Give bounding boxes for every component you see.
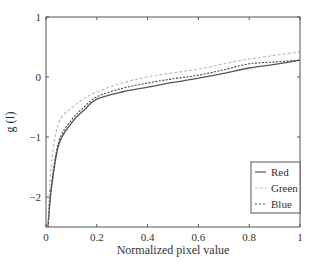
x-tick-label: 0.6 bbox=[192, 231, 206, 243]
x-tick-label: 0.8 bbox=[242, 231, 256, 243]
legend-label-green: Green bbox=[271, 182, 298, 194]
y-tick-label: 0 bbox=[36, 71, 42, 83]
x-tick-label: 1 bbox=[297, 231, 303, 243]
x-axis-label: Normalized pixel value bbox=[117, 243, 230, 257]
x-tick-label: 0.2 bbox=[90, 231, 104, 243]
x-tick-label: 0 bbox=[43, 231, 49, 243]
legend-label-blue: Blue bbox=[271, 198, 292, 210]
legend-label-red: Red bbox=[271, 166, 289, 178]
chart: 00.20.40.60.8110−1−2 Normalized pixel va… bbox=[0, 0, 315, 266]
y-tick-label: −1 bbox=[29, 131, 41, 143]
y-tick-label: 1 bbox=[36, 11, 42, 23]
y-axis-label: g (I) bbox=[3, 112, 17, 133]
y-tick-label: −2 bbox=[29, 191, 41, 203]
legend: Red Green Blue bbox=[251, 162, 300, 213]
x-tick-label: 0.4 bbox=[141, 231, 155, 243]
